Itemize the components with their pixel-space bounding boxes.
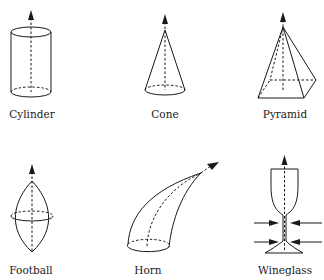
cylinder-shape <box>11 10 51 97</box>
arrow-up-icon <box>28 10 34 20</box>
arrow-up-icon <box>280 12 286 22</box>
arrow-up-icon <box>29 164 35 174</box>
football-shape <box>11 164 53 252</box>
label-wineglass: Wineglass <box>258 264 312 276</box>
arrow-right-icon <box>269 220 279 226</box>
label-cylinder: Cylinder <box>9 108 54 120</box>
arrow-left-icon <box>290 239 300 245</box>
arrow-right-icon <box>269 239 279 245</box>
arrow-left-icon <box>290 220 300 226</box>
label-football: Football <box>9 264 52 276</box>
pyramid-shape <box>258 12 316 98</box>
label-cone: Cone <box>151 108 178 120</box>
arrow-diagonal-icon <box>207 162 219 170</box>
shapes-diagram <box>0 0 324 280</box>
horn-shape <box>127 162 219 252</box>
cone-shape <box>145 14 185 95</box>
label-horn: Horn <box>134 264 161 276</box>
label-pyramid: Pyramid <box>263 108 307 120</box>
wineglass-shape <box>254 155 322 253</box>
arrow-up-icon <box>162 14 168 24</box>
arrow-up-icon <box>282 155 288 165</box>
